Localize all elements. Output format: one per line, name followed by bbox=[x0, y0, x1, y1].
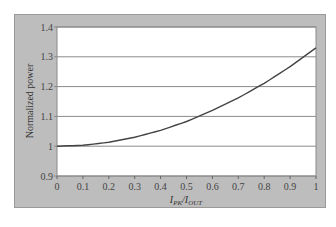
y-tick-label: 1.2 bbox=[41, 81, 54, 92]
plot-area bbox=[57, 27, 316, 176]
x-tick-label: 0.4 bbox=[154, 181, 167, 192]
y-tick-label: 1.1 bbox=[41, 111, 54, 122]
x-tick-label: 1 bbox=[314, 181, 319, 192]
x-axis-label: IPK/IOUT bbox=[169, 194, 204, 207]
y-tick-label: 1.4 bbox=[41, 22, 54, 33]
y-tick-label: 0.9 bbox=[41, 171, 54, 182]
x-axis-ticks: 00.10.20.30.40.50.60.70.80.91 bbox=[55, 176, 319, 192]
y-tick-label: 1.3 bbox=[41, 51, 54, 62]
x-tick-label: 0.2 bbox=[103, 181, 116, 192]
x-tick-label: 0.5 bbox=[180, 181, 193, 192]
x-tick-label: 0.8 bbox=[258, 181, 271, 192]
x-tick-label: 0.9 bbox=[284, 181, 297, 192]
x-tick-label: 0.3 bbox=[128, 181, 141, 192]
x-tick-label: 0 bbox=[55, 181, 60, 192]
x-tick-label: 0.7 bbox=[232, 181, 245, 192]
x-tick-label: 0.1 bbox=[77, 181, 90, 192]
y-tick-label: 1 bbox=[48, 141, 53, 152]
y-axis-ticks: 0.911.11.21.31.4 bbox=[41, 22, 54, 182]
chart: 0.911.11.21.31.4 00.10.20.30.40.50.60.70… bbox=[0, 0, 336, 227]
x-tick-label: 0.6 bbox=[206, 181, 219, 192]
y-axis-label: Normalized power bbox=[24, 63, 35, 138]
